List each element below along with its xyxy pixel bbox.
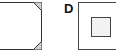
bottom-left-corner-triangle-icon (0, 41, 1, 50)
cut-corner-square-figure (0, 2, 42, 50)
inner-shaded-square (91, 17, 111, 37)
top-left-corner-triangle-icon (0, 2, 1, 11)
nested-square-figure (78, 2, 116, 50)
bottom-right-corner-triangle-icon (33, 41, 42, 50)
figure-label-d: D (64, 1, 73, 16)
top-right-corner-triangle-icon (33, 2, 42, 11)
